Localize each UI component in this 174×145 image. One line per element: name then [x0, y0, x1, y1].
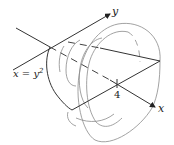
curve-label: x = y2	[13, 67, 44, 79]
y-axis-label: y	[111, 5, 119, 18]
top-boundary-line	[100, 48, 160, 61]
cross-section-arc-smaller-back	[59, 46, 64, 72]
outer-ellipse-cross-section	[78, 23, 160, 141]
cross-section-arc-middle-back	[128, 32, 140, 62]
tick-label-4: 4	[114, 89, 120, 100]
solid-of-revolution-diagram: y x 4 x = y2	[0, 0, 174, 145]
x-axis-label: x	[158, 102, 165, 115]
x-axis-front	[16, 28, 50, 47]
cross-section-arc-small	[66, 40, 80, 86]
y-axis	[13, 14, 110, 70]
cross-section-arc-inner	[79, 38, 102, 108]
curve-label-base: x = y	[13, 68, 39, 79]
curve-label-exponent: 2	[38, 67, 44, 75]
cross-section-arc-bottom-inner	[67, 112, 76, 126]
